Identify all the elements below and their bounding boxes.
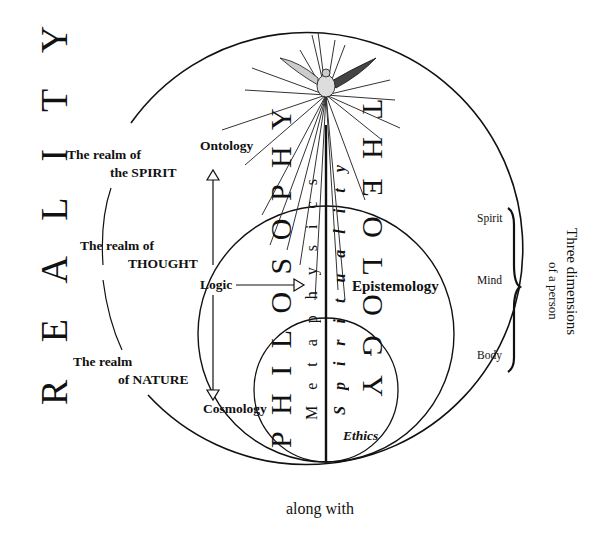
ontology-label: Ontology — [200, 138, 253, 154]
realm-spirit-line2: the SPIRIT — [110, 165, 176, 181]
realm-nature-line1: The realm — [73, 354, 132, 370]
along-with-caption: along with — [286, 500, 354, 518]
reality-title: R E A L I T Y — [32, 125, 76, 405]
ethics-label: Ethics — [343, 428, 378, 444]
realm-thought-line2: THOUGHT — [128, 256, 198, 272]
realm-arc-segments — [102, 188, 122, 350]
dove-icon — [280, 58, 376, 97]
philosophy-vertical: P H I L O S O P H Y — [264, 108, 298, 448]
person-mind: Mind — [477, 274, 502, 286]
three-dimensions-title: Three dimensions — [563, 228, 580, 335]
theology-vertical: T H E O L O G Y — [356, 100, 390, 425]
cosmology-label: Cosmology — [203, 401, 267, 417]
spirituality-vertical: S p i r i t u a l i t y — [331, 140, 349, 415]
person-spirit: Spirit — [477, 212, 503, 224]
person-body: Body — [477, 349, 502, 361]
logic-label: Logic — [200, 277, 232, 293]
realm-spirit-line1: The realm of — [67, 147, 141, 163]
metaphysics-vertical: M e t a p h y s i c s — [303, 150, 321, 420]
of-a-person-subtitle: of a person — [545, 262, 561, 320]
realm-nature-line2: of NATURE — [118, 372, 189, 388]
curly-brace-icon — [508, 208, 520, 372]
realm-thought-line1: The realm of — [80, 238, 154, 254]
